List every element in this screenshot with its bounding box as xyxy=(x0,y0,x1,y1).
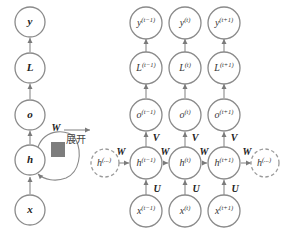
node-h-label: h xyxy=(27,153,33,165)
delay-square xyxy=(51,142,65,157)
folded-graph: W y L o h x xyxy=(15,7,79,225)
weight-W-4: W xyxy=(243,146,253,157)
weight-W-1: W xyxy=(117,146,127,157)
weight-V: V xyxy=(153,132,161,143)
unfold-indicator: 展开 xyxy=(64,130,90,145)
node-y-label: y xyxy=(26,15,33,27)
unrolled-graph: W W W W h(...) h(...) V U y(t−1) L(t−1) … xyxy=(91,7,279,227)
rnn-unfold-diagram: W y L o h x 展开 W W W W h(...) h(...) xyxy=(0,0,300,234)
weight-U: U xyxy=(231,183,239,194)
weight-U: U xyxy=(192,183,200,194)
node-o-label: o xyxy=(27,108,33,120)
weight-W-3: W xyxy=(200,146,210,157)
column-t: V U y(t) L(t) o(t) h(t) x(t) xyxy=(169,7,201,227)
node-x-label: x xyxy=(26,203,33,215)
weight-V: V xyxy=(192,132,200,143)
weight-V: V xyxy=(231,132,239,143)
loop-weight-label: W xyxy=(52,122,62,133)
column-t-plus-1: V U y(t+1) L(t+1) o(t+1) h(t+1) x(t+1) xyxy=(208,7,240,227)
column-t-minus-1: V U y(t−1) L(t−1) o(t−1) h(t−1) x(t−1) xyxy=(130,7,162,227)
weight-W-2: W xyxy=(161,146,171,157)
unfold-label: 展开 xyxy=(66,134,86,145)
weight-U: U xyxy=(153,183,161,194)
node-L-label: L xyxy=(26,61,34,73)
